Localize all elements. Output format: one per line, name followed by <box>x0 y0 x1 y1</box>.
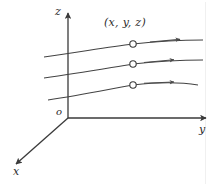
y-axis-label: y <box>199 124 205 135</box>
point-marker-middle <box>130 61 136 67</box>
origin-label: o <box>56 107 62 117</box>
x-axis-line <box>16 118 68 164</box>
figure-canvas: z y x o (x, y, z) <box>0 0 222 186</box>
point-marker-top <box>130 41 136 47</box>
point-coordinate-label: (x, y, z) <box>104 17 146 28</box>
x-axis-label: x <box>13 166 19 177</box>
z-axis-label: z <box>55 6 61 17</box>
point-marker-bottom <box>130 82 136 88</box>
streamline-bottom <box>48 83 198 100</box>
